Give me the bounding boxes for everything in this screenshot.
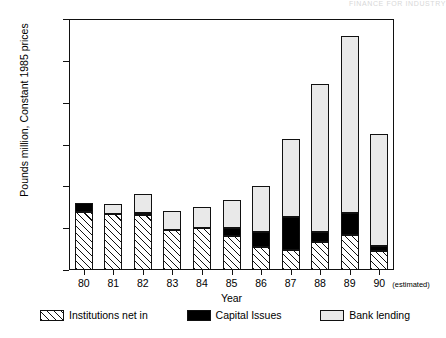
- x-axis-title: Year: [69, 292, 394, 304]
- bar-87: [282, 139, 300, 270]
- bar-segment-dotted: [252, 186, 270, 232]
- bar-segment-dotted: [163, 211, 181, 230]
- bar-segment-diagonal-hatch: [311, 242, 329, 270]
- x-tick-mark: [113, 270, 114, 275]
- y-tick-mark: [63, 103, 69, 104]
- bar-segment-dotted: [104, 204, 122, 214]
- legend-swatch-solid-black: [187, 310, 211, 321]
- x-tick-mark: [379, 270, 380, 275]
- x-tick-mark: [320, 270, 321, 275]
- chart-legend: Institutions net inCapital IssuesBank le…: [40, 305, 410, 325]
- bar-segment-dotted: [134, 194, 152, 213]
- y-tick-mark: [63, 145, 69, 146]
- x-tick-mark: [172, 270, 173, 275]
- bar-segment-diagonal-hatch: [75, 212, 93, 270]
- bar-segment-diagonal-hatch: [370, 251, 388, 270]
- bar-segment-solid-black: [75, 203, 93, 212]
- bar-segment-diagonal-hatch: [223, 236, 241, 270]
- bar-84: [193, 207, 211, 270]
- bar-83: [163, 211, 181, 270]
- y-tick-mark: [63, 186, 69, 187]
- bar-segment-diagonal-hatch: [341, 235, 359, 270]
- legend-swatch-dotted: [320, 310, 344, 321]
- bar-segment-solid-black: [311, 232, 329, 242]
- bar-segment-diagonal-hatch: [193, 228, 211, 270]
- bar-86: [252, 186, 270, 270]
- clipped-header-text: FINANCE FOR INDUSTRY: [300, 0, 446, 7]
- bar-segment-dotted: [223, 200, 241, 228]
- bar-segment-dotted: [370, 134, 388, 246]
- bar-segment-diagonal-hatch: [282, 250, 300, 270]
- bar-90: [370, 134, 388, 270]
- bar-segment-solid-black: [252, 232, 270, 247]
- bar-segment-diagonal-hatch: [252, 247, 270, 270]
- y-tick-mark: [63, 19, 69, 20]
- legend-item-2[interactable]: Bank lending: [320, 309, 410, 321]
- bar-segment-solid-black: [370, 246, 388, 251]
- x-tick-mark: [202, 270, 203, 275]
- x-tick-mark: [350, 270, 351, 275]
- bar-segment-solid-black: [134, 213, 152, 215]
- bar-82: [134, 194, 152, 270]
- bar-81: [104, 204, 122, 270]
- chart-figure: FINANCE FOR INDUSTRY 0200040006000800010…: [0, 0, 446, 338]
- bar-88: [311, 84, 329, 270]
- legend-label: Institutions net in: [69, 309, 148, 321]
- y-axis-title: Pounds million, Constant 1985 prices: [18, 0, 30, 240]
- x-tick-mark: [232, 270, 233, 275]
- x-tick-mark: [261, 270, 262, 275]
- y-tick-mark: [63, 228, 69, 229]
- bar-segment-dotted: [311, 84, 329, 232]
- bar-segment-diagonal-hatch: [163, 230, 181, 270]
- y-tick-mark: [63, 270, 69, 271]
- bar-segment-solid-black: [223, 228, 241, 236]
- x-tick-mark: [84, 270, 85, 275]
- x-tick-mark: [291, 270, 292, 275]
- bar-segment-diagonal-hatch: [134, 215, 152, 270]
- legend-swatch-diagonal-hatch: [40, 310, 64, 321]
- y-tick-mark: [63, 61, 69, 62]
- x-tick-note-estimated: (estimated): [392, 280, 430, 289]
- x-tick-mark: [143, 270, 144, 275]
- bar-segment-dotted: [282, 139, 300, 217]
- bar-segment-dotted: [193, 207, 211, 228]
- legend-item-1[interactable]: Capital Issues: [187, 309, 282, 321]
- bar-85: [223, 200, 241, 270]
- bar-segment-diagonal-hatch: [104, 214, 122, 270]
- bar-89: [341, 36, 359, 270]
- legend-item-0[interactable]: Institutions net in: [40, 309, 148, 321]
- legend-label: Capital Issues: [216, 309, 282, 321]
- bar-segment-solid-black: [282, 217, 300, 250]
- bar-segment-dotted: [341, 36, 359, 213]
- legend-label: Bank lending: [349, 309, 410, 321]
- bar-80: [75, 203, 93, 270]
- bar-segment-solid-black: [341, 213, 359, 235]
